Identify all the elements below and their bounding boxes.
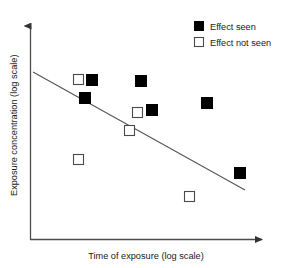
data-point-filled	[87, 75, 98, 86]
x-axis-title: Time of exposure (log scale)	[88, 251, 204, 261]
data-point-open	[74, 75, 84, 85]
y-axis-title: Exposure concentration (log scale)	[9, 55, 19, 196]
data-point-filled	[136, 76, 147, 87]
legend-label-effect-seen: Effect seen	[210, 22, 256, 32]
data-point-open	[74, 155, 84, 165]
data-point-open	[133, 108, 143, 118]
filled-square-icon	[195, 22, 204, 31]
data-point-open	[125, 126, 135, 136]
plot-canvas: Effect seen Effect not seen Exposure con…	[0, 0, 296, 268]
data-point-filled	[202, 98, 213, 109]
data-point-open	[185, 192, 195, 202]
data-point-filled	[235, 168, 246, 179]
open-square-icon	[195, 38, 204, 47]
scatter-plot-figure: Effect seen Effect not seen Exposure con…	[0, 0, 296, 268]
data-point-filled	[80, 93, 91, 104]
data-point-filled	[147, 105, 158, 116]
legend-label-effect-not-seen: Effect not seen	[210, 38, 271, 48]
